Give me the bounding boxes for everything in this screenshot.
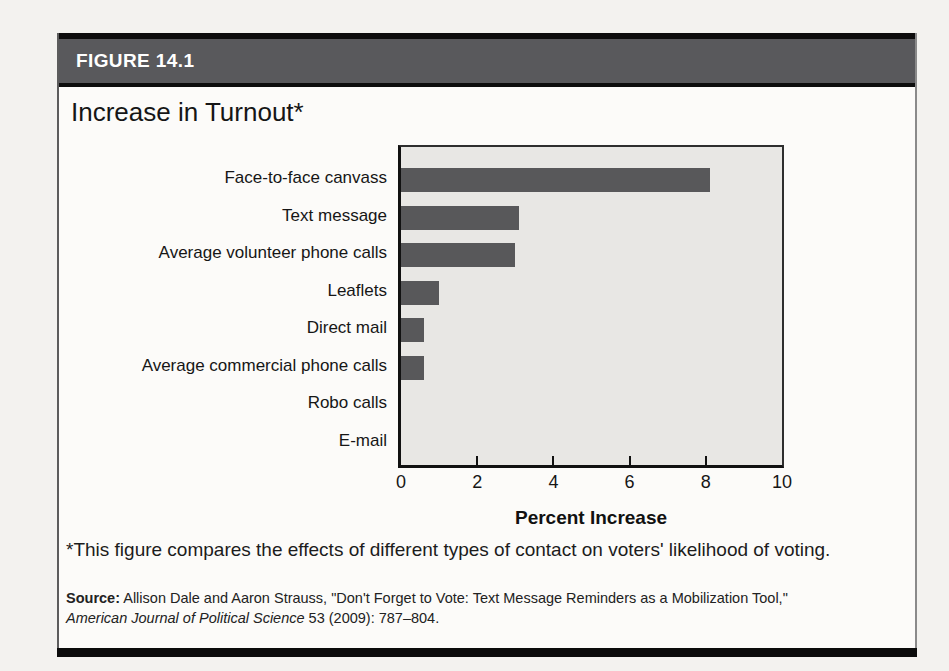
category-label: Text message bbox=[282, 206, 387, 226]
x-tick-label: 8 bbox=[701, 472, 711, 493]
scanned-page: FIGURE 14.1 Increase in Turnout* Face-to… bbox=[0, 0, 949, 671]
figure-label: FIGURE 14.1 bbox=[76, 50, 194, 72]
source-journal: American Journal of Political Science bbox=[66, 610, 305, 626]
bar-1 bbox=[401, 168, 710, 192]
x-tick-label: 6 bbox=[625, 472, 635, 493]
category-label: Direct mail bbox=[307, 318, 387, 338]
bar-4 bbox=[401, 281, 439, 305]
figure-title: Increase in Turnout* bbox=[71, 97, 304, 128]
bar-chart: Face-to-face canvassText messageAverage … bbox=[59, 145, 915, 545]
x-tick-label: 0 bbox=[396, 472, 406, 493]
category-label: Robo calls bbox=[308, 393, 387, 413]
x-tick-label: 4 bbox=[548, 472, 558, 493]
bar-3 bbox=[401, 243, 515, 267]
source-line: Source: Allison Dale and Aaron Strauss, … bbox=[66, 588, 788, 628]
category-label: Average volunteer phone calls bbox=[159, 243, 387, 263]
x-tick bbox=[552, 456, 554, 465]
figure-box: FIGURE 14.1 Increase in Turnout* Face-to… bbox=[57, 33, 917, 657]
x-tick-label: 10 bbox=[772, 472, 792, 493]
figure-header: FIGURE 14.1 bbox=[59, 33, 915, 87]
source-label: Source: bbox=[66, 590, 120, 606]
bar-2 bbox=[401, 206, 519, 230]
bar-6 bbox=[401, 356, 424, 380]
x-tick bbox=[629, 456, 631, 465]
footnote: *This figure compares the effects of dif… bbox=[66, 539, 830, 561]
x-tick-label: 2 bbox=[472, 472, 482, 493]
bottom-rule bbox=[57, 648, 917, 657]
source-text: Allison Dale and Aaron Strauss, "Don't F… bbox=[120, 590, 788, 606]
x-tick bbox=[705, 456, 707, 465]
category-labels: Face-to-face canvassText messageAverage … bbox=[59, 145, 393, 468]
category-label: E-mail bbox=[339, 431, 387, 451]
x-axis-label: Percent Increase bbox=[398, 507, 784, 529]
category-label: Leaflets bbox=[327, 281, 387, 301]
category-label: Face-to-face canvass bbox=[224, 168, 387, 188]
category-label: Average commercial phone calls bbox=[142, 356, 387, 376]
bar-5 bbox=[401, 318, 424, 342]
source-pages: 53 (2009): 787–804. bbox=[305, 610, 440, 626]
x-tick bbox=[476, 456, 478, 465]
plot-area: 0246810 bbox=[398, 145, 784, 468]
